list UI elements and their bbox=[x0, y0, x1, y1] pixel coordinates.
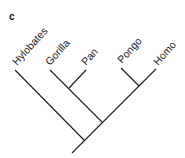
branch-root-to-homo bbox=[72, 69, 156, 153]
branch-pan bbox=[69, 70, 86, 88]
taxon-label-pan: Pan bbox=[79, 45, 101, 67]
taxon-label-gorilla: Gorilla bbox=[43, 37, 72, 68]
taxon-label-homo: Homo bbox=[151, 38, 179, 67]
panel-label: c bbox=[9, 11, 15, 22]
branch-pongo bbox=[121, 68, 139, 86]
taxon-label-pongo: Pongo bbox=[115, 35, 144, 66]
phylogenetic-tree: c Hylobates Gorilla Pan Pongo Homo bbox=[0, 0, 185, 158]
branch-hylobates bbox=[15, 70, 84, 140]
